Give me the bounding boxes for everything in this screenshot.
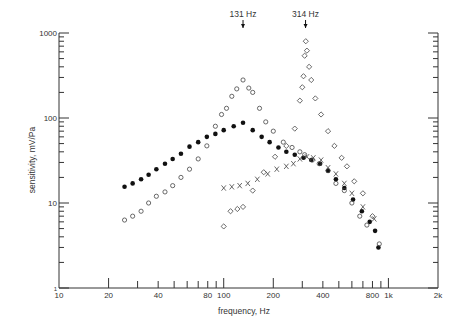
x-tick-label: 400 xyxy=(316,291,330,300)
filled-circle-marker xyxy=(259,135,264,140)
arrow-head-icon xyxy=(241,24,245,28)
open-circle-marker xyxy=(163,190,167,194)
open-circle-marker xyxy=(179,175,183,179)
open-circle-marker xyxy=(298,150,302,154)
y-tick-label: 10 xyxy=(48,199,57,208)
x-marker xyxy=(255,177,259,182)
open-circle-marker xyxy=(334,181,338,185)
annotations: 131 Hz314 Hz xyxy=(230,9,319,28)
diamond-marker xyxy=(307,64,312,69)
x-marker xyxy=(284,164,288,169)
open-circle-marker xyxy=(230,94,234,98)
x-tick-label: 2k xyxy=(434,291,443,300)
open-circle-marker xyxy=(358,214,362,218)
open-circle-marker xyxy=(171,184,175,188)
data-markers xyxy=(122,39,381,250)
x-tick-label: 100 xyxy=(217,291,231,300)
y-axis-label: sensitivity, mV/Pa xyxy=(27,127,37,194)
annotation-label: 314 Hz xyxy=(292,9,319,19)
filled-circle-marker xyxy=(163,161,168,166)
x-tick-label: 80 xyxy=(203,291,212,300)
x-tick-label: 200 xyxy=(267,291,281,300)
x-tick-label: 20 xyxy=(104,291,113,300)
diamond-marker xyxy=(272,154,277,159)
diamond-marker xyxy=(300,85,305,90)
open-circle-marker xyxy=(224,106,228,110)
sensitivity-chart: 1101001000102040801002004008001k2k 131 H… xyxy=(0,0,465,327)
open-circle-marker xyxy=(365,223,369,227)
open-circle-marker xyxy=(271,129,275,133)
open-circle-marker xyxy=(219,112,223,116)
x-marker xyxy=(275,167,279,172)
x-marker xyxy=(342,181,346,186)
x-marker xyxy=(361,204,365,209)
x-marker xyxy=(334,171,338,176)
filled-circle-marker xyxy=(213,132,218,137)
diamond-marker xyxy=(302,53,307,58)
diamond-marker xyxy=(309,77,314,82)
filled-circle-marker xyxy=(179,151,184,156)
open-circle-marker xyxy=(251,90,255,94)
filled-circle-marker xyxy=(154,167,159,172)
filled-circle-marker xyxy=(360,209,365,214)
diamond-marker xyxy=(240,204,245,209)
open-circle-marker xyxy=(213,124,217,128)
diamond-marker xyxy=(235,206,240,211)
filled-circle-marker xyxy=(122,185,127,190)
x-tick-label: 1k xyxy=(384,291,393,300)
filled-circle-marker xyxy=(221,128,226,133)
filled-circle-marker xyxy=(196,140,201,145)
arrow-head-icon xyxy=(304,24,308,28)
y-tick-label: 100 xyxy=(44,114,58,123)
open-circle-marker xyxy=(196,157,200,161)
diamond-marker xyxy=(325,129,330,134)
filled-circle-marker xyxy=(205,135,210,140)
diamond-marker xyxy=(250,188,255,193)
x-marker xyxy=(291,161,295,166)
axes xyxy=(59,33,438,288)
filled-circle-marker xyxy=(146,172,151,177)
filled-circle-marker xyxy=(276,145,281,150)
filled-circle-marker xyxy=(250,128,255,133)
open-circle-marker xyxy=(257,106,261,110)
diamond-marker xyxy=(313,96,318,101)
open-circle-marker xyxy=(241,78,245,82)
open-circle-marker xyxy=(290,145,294,149)
open-circle-marker xyxy=(154,194,158,198)
filled-circle-marker xyxy=(292,152,297,157)
filled-circle-marker xyxy=(130,181,135,186)
x-marker xyxy=(230,184,234,189)
open-circle-marker xyxy=(247,86,251,90)
x-tick-label: 10 xyxy=(55,291,64,300)
diamond-marker xyxy=(228,209,233,214)
open-circle-marker xyxy=(147,201,151,205)
diamond-marker xyxy=(301,74,306,79)
diamond-marker xyxy=(297,98,302,103)
x-marker xyxy=(246,181,250,186)
diamond-marker xyxy=(339,155,344,160)
diamond-marker xyxy=(261,170,266,175)
ticks xyxy=(59,33,438,288)
x-marker xyxy=(222,185,226,190)
open-circle-marker xyxy=(235,87,239,91)
x-tick-label: 800 xyxy=(366,291,380,300)
open-circle-marker xyxy=(187,167,191,171)
open-circle-marker xyxy=(122,218,126,222)
filled-circle-marker xyxy=(139,177,144,182)
diamond-marker xyxy=(304,48,309,53)
x-marker xyxy=(237,183,241,188)
open-circle-marker xyxy=(350,201,354,205)
filled-circle-marker xyxy=(187,144,192,149)
diamond-marker xyxy=(360,191,365,196)
filled-circle-marker xyxy=(241,120,246,125)
y-tick-label: 1000 xyxy=(39,29,57,38)
diamond-marker xyxy=(303,39,308,44)
x-marker xyxy=(298,156,302,161)
filled-circle-marker xyxy=(284,150,289,155)
x-tick-label: 40 xyxy=(154,291,163,300)
diamond-marker xyxy=(344,164,349,169)
diamond-marker xyxy=(318,112,323,117)
filled-circle-marker xyxy=(170,157,175,162)
diamond-marker xyxy=(332,143,337,148)
x-marker xyxy=(350,191,354,196)
